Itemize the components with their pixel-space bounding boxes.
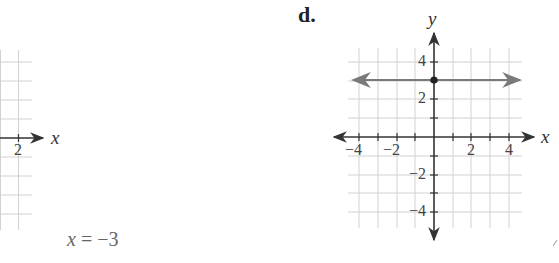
- graph-d-x-tick-4: 4: [505, 141, 513, 159]
- figure-canvas: [0, 0, 559, 263]
- graph-d-y-tick-neg4: −4: [409, 202, 426, 220]
- cropped-glyph-fragment: [553, 240, 557, 246]
- partial-graph-x-tick-2: 2: [14, 141, 22, 159]
- graph-d-y-tick-2: 2: [418, 89, 426, 107]
- graph-d-x-tick-neg4: −4: [345, 141, 362, 159]
- graph-d-grid: [348, 48, 522, 228]
- graph-d-part-label: d.: [298, 2, 316, 28]
- graph-d-y-tick-4: 4: [418, 52, 426, 70]
- graph-d-x-axis-label: x: [541, 126, 549, 148]
- graph-d-y-intercept-point: [430, 76, 437, 83]
- graph-d-y-axis-label: y: [428, 8, 436, 30]
- equation-rest: = −3: [76, 228, 119, 250]
- partial-graph-equation: x = −3: [67, 228, 118, 251]
- graph-d-x-tick-2: 2: [467, 141, 475, 159]
- graph-d-y-tick-neg2: −2: [409, 165, 426, 183]
- partial-graph-grid: [0, 50, 32, 230]
- partial-graph-x-axis-label: x: [51, 127, 59, 149]
- equation-variable: x: [67, 228, 76, 250]
- graph-d-x-tick-neg2: −2: [383, 141, 400, 159]
